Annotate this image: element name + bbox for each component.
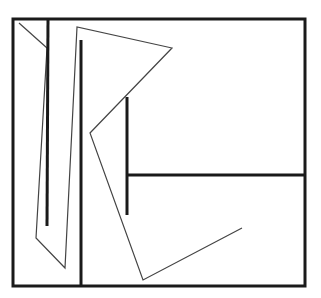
left-vertical-bar bbox=[47, 19, 48, 226]
line-drawing bbox=[0, 0, 321, 298]
diagram-canvas bbox=[0, 0, 321, 298]
